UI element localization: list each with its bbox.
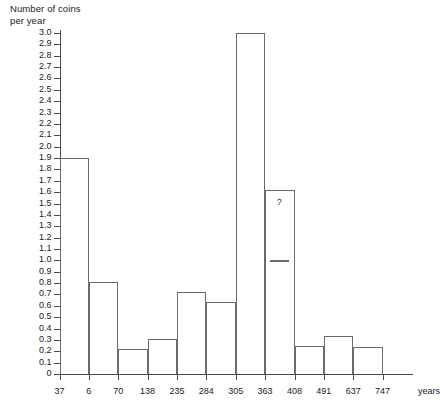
x-tick-label: 235 [161,386,193,396]
y-tick-label: 2.2 [39,118,52,128]
x-tick-label: 637 [337,386,369,396]
y-tick-label: 1.2 [39,232,52,242]
y-tick-label: 1.3 [39,220,52,230]
histogram-bar [60,158,89,374]
y-tick-mark [54,67,60,68]
y-tick-label: 2.1 [39,129,52,139]
x-tick-label: 491 [308,386,340,396]
histogram-bar [265,190,294,374]
x-tick-mark [148,374,149,380]
x-tick-mark [206,374,207,380]
y-tick-label: 2.4 [39,95,52,105]
y-tick-label: 1.1 [39,243,52,253]
y-tick-label: 1.7 [39,175,52,185]
y-tick-label: 1.4 [39,209,52,219]
y-tick-label: 0.8 [39,277,52,287]
y-axis-title: Number of coins per year [10,3,81,26]
x-tick-label: 747 [367,386,399,396]
y-tick-label: 3.0 [39,27,52,37]
y-tick-label: 2.0 [39,141,52,151]
y-tick-label: 1.0 [39,254,52,264]
y-tick-label: 1.8 [39,163,52,173]
x-tick-label: 37 [44,386,76,396]
y-tick-label: 0.1 [39,357,52,367]
y-tick-label: 0.9 [39,266,52,276]
histogram-bar [206,302,235,374]
x-tick-label: 305 [220,386,252,396]
x-tick-mark [324,374,325,380]
y-tick-label: 2.5 [39,84,52,94]
y-tick-mark [54,147,60,148]
x-tick-label: 363 [249,386,281,396]
histogram-bar [89,282,118,374]
x-tick-label: 138 [132,386,164,396]
y-tick-mark [54,44,60,45]
x-tick-mark [383,374,384,380]
uncertainty-marker: ? [277,197,282,207]
x-tick-mark [265,374,266,380]
y-tick-mark [54,135,60,136]
y-tick-mark [54,33,60,34]
histogram-bar [295,346,324,374]
y-tick-mark [54,56,60,57]
y-tick-label: 2.9 [39,38,52,48]
y-tick-label: 0.2 [39,345,52,355]
inner-reference-line [270,260,288,262]
histogram-bar [148,339,177,374]
x-tick-mark [236,374,237,380]
y-tick-label: 0.5 [39,311,52,321]
y-tick-mark [54,90,60,91]
histogram-bar [177,292,206,374]
y-tick-label: 0.7 [39,288,52,298]
plot-area: ? [60,33,412,374]
y-tick-label: 1.5 [39,198,52,208]
x-tick-label: 6 [73,386,105,396]
y-tick-label: 0.4 [39,323,52,333]
y-tick-label: 1.9 [39,152,52,162]
histogram-bar [324,336,353,374]
x-tick-label: 284 [190,386,222,396]
y-tick-label: 1.6 [39,186,52,196]
x-tick-mark [89,374,90,380]
y-tick-label: 0.6 [39,300,52,310]
x-tick-mark [177,374,178,380]
y-tick-label: 0 [46,368,51,378]
y-tick-mark [54,113,60,114]
x-tick-label: 70 [102,386,134,396]
x-axis-unit-label: years [418,386,440,396]
y-tick-mark [54,78,60,79]
y-tick-label: 2.7 [39,61,52,71]
x-tick-mark [353,374,354,380]
histogram-bar [353,347,382,374]
y-tick-label: 2.6 [39,72,52,82]
y-tick-mark [54,124,60,125]
y-tick-label: 2.8 [39,50,52,60]
x-tick-mark [295,374,296,380]
x-tick-mark [60,374,61,380]
x-tick-mark [118,374,119,380]
x-tick-label: 408 [279,386,311,396]
histogram-bar [118,349,147,374]
y-tick-label: 2.3 [39,107,52,117]
histogram-bar [236,33,265,374]
y-tick-mark [54,101,60,102]
y-tick-label: 0.3 [39,334,52,344]
